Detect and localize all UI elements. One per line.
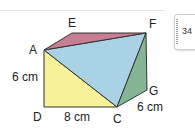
label-cg-length: 6 cm [137,100,163,114]
spiral-binding-icon [176,19,178,45]
label-dc-length: 8 cm [64,110,90,124]
label-ad-length: 6 cm [12,70,38,84]
page-number: 34 [182,26,192,36]
prism-diagram: E F A 6 cm G 6 cm D 8 cm C [0,0,195,131]
label-c: C [113,112,122,126]
label-a: A [29,43,37,57]
label-e: E [68,16,76,30]
page-number-tab: 34 [174,14,195,50]
label-d: D [33,110,42,124]
label-g: G [149,84,158,98]
label-f: F [149,17,156,31]
